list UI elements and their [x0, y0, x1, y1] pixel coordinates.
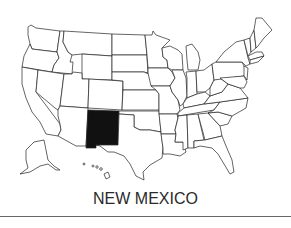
state-maine [254, 18, 272, 48]
state-south-dakota [112, 55, 148, 73]
state-hawaii-island-2 [92, 165, 94, 167]
state-iowa [148, 68, 175, 86]
divider-line [0, 216, 291, 217]
state-wyoming [82, 54, 112, 80]
state-hawaii-big-island [104, 172, 110, 179]
state-michigan [186, 44, 200, 70]
state-kansas [122, 90, 159, 110]
state-florida [194, 136, 234, 174]
state-hawaii-island-4 [100, 168, 103, 171]
state-name-caption: NEW MEXICO [0, 190, 291, 208]
state-hawaii-island-1 [83, 163, 85, 165]
state-north-dakota [112, 34, 147, 55]
state-new-mexico [86, 110, 119, 148]
state-washington [28, 25, 60, 52]
state-indiana [186, 71, 197, 98]
state-hawaii-island-3 [96, 166, 98, 168]
state-montana [63, 31, 112, 56]
state-colorado [88, 79, 123, 110]
state-arizona [58, 106, 88, 146]
state-alaska [20, 140, 60, 174]
us-map [0, 0, 291, 185]
